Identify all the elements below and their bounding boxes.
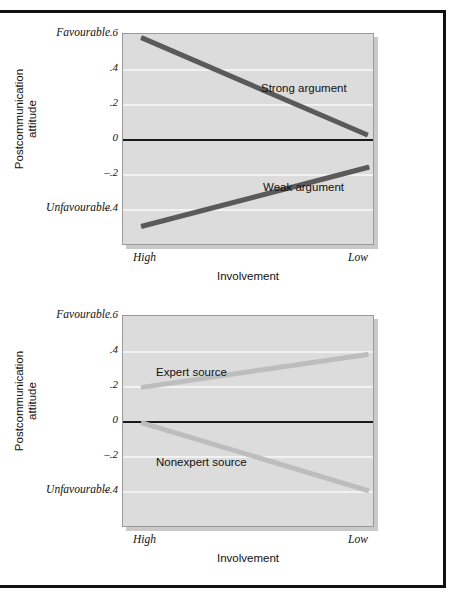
y-end-label-favourable-2: Favourable <box>18 308 110 320</box>
x-tick-high-1: High <box>133 251 156 263</box>
y-axis-title-2: Postcommunication attitude <box>13 341 39 461</box>
zero-line-2 <box>123 421 373 423</box>
gridline--0.4 <box>123 491 373 493</box>
gridline-0.2 <box>123 104 373 106</box>
plot-area-wrapper-1: Strong argument Weak argument <box>122 33 374 245</box>
y-end-label-unfavourable-1: Unfavourable <box>6 201 110 213</box>
plot-area-wrapper-2: Expert source Nonexpert source <box>122 315 374 527</box>
y-end-label-unfavourable-2: Unfavourable <box>6 483 110 495</box>
series-label-nonexpert-source: Nonexpert source <box>156 456 247 468</box>
x-tick-high-2: High <box>133 533 156 545</box>
y-tick--0.2: –.2 <box>82 166 118 178</box>
figure-argument-strength: .6 .4 .2 0 –.2 –.4 Favourable Unfavourab… <box>0 18 440 288</box>
y-axis-tick-column-2: .6 .4 .2 0 –.2 –.4 <box>78 315 118 527</box>
x-axis-title-1: Involvement <box>122 270 374 282</box>
series-label-strong-argument: Strong argument <box>261 82 347 94</box>
y-tick-0.4: .4 <box>82 343 118 355</box>
y-axis-tick-column-1: .6 .4 .2 0 –.2 –.4 <box>78 33 118 245</box>
figure-source-expertise: .6 .4 .2 0 –.2 –.4 Favourable Unfavourab… <box>0 300 440 575</box>
y-tick-0.2: .2 <box>82 378 118 390</box>
y-tick-0: 0 <box>82 131 118 143</box>
gridline-0.4 <box>123 351 373 353</box>
y-axis-title-1: Postcommunication attitude <box>13 59 39 179</box>
zero-line-1 <box>123 139 373 141</box>
y-tick--0.2: –.2 <box>82 448 118 460</box>
x-tick-low-2: Low <box>348 533 368 545</box>
gridline--0.4 <box>123 209 373 211</box>
y-end-label-favourable-1: Favourable <box>18 26 110 38</box>
plot-area-2: Expert source Nonexpert source <box>122 315 374 527</box>
gridline-0.4 <box>123 69 373 71</box>
series-label-expert-source: Expert source <box>156 366 227 378</box>
y-tick-0.2: .2 <box>82 96 118 108</box>
x-axis-title-2: Involvement <box>122 552 374 564</box>
y-tick-0.4: .4 <box>82 61 118 73</box>
series-label-weak-argument: Weak argument <box>263 181 344 193</box>
y-tick-0: 0 <box>82 413 118 425</box>
x-tick-low-1: Low <box>348 251 368 263</box>
plot-area-1: Strong argument Weak argument <box>122 33 374 245</box>
